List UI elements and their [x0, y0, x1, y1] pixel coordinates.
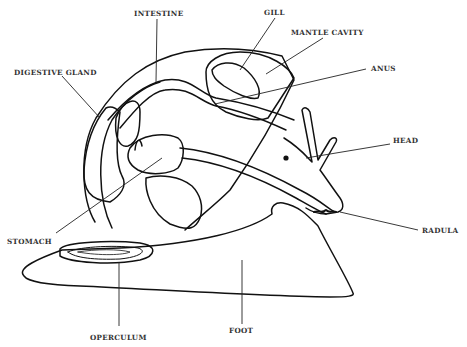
mantle-cavity-shape	[206, 52, 294, 120]
stomach-shape	[128, 135, 183, 174]
label-radula: RADULA	[422, 226, 459, 235]
label-anus: ANUS	[370, 64, 396, 73]
snail-anatomy-diagram: INTESTINE GILL MANTLE CAVITY DIGESTIVE G…	[0, 0, 467, 347]
label-head: HEAD	[393, 136, 418, 145]
shell-outline	[84, 49, 294, 230]
eye	[283, 155, 288, 160]
label-operculum: OPERCULUM	[90, 333, 147, 342]
label-stomach: STOMACH	[7, 237, 52, 246]
label-foot: FOOT	[229, 326, 254, 335]
digestive-gland-shape	[84, 107, 124, 202]
diagram-canvas: INTESTINE GILL MANTLE CAVITY DIGESTIVE G…	[0, 0, 467, 347]
gill-shape	[212, 63, 259, 98]
label-intestine: INTESTINE	[134, 9, 184, 18]
label-mantle-cavity: MANTLE CAVITY	[291, 28, 364, 37]
operculum-shape	[60, 242, 153, 263]
label-gill: GILL	[264, 8, 285, 17]
label-digestive-gland: DIGESTIVE GLAND	[14, 68, 97, 77]
